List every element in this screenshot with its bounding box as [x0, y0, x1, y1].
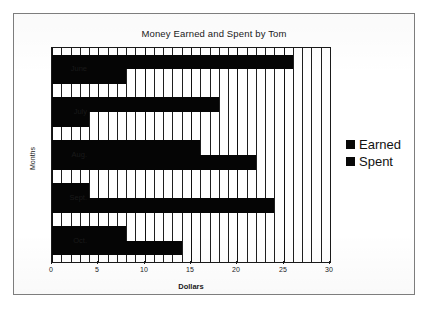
y-tick-label-sept: Sept. — [53, 192, 87, 201]
x-tick — [144, 261, 145, 264]
x-tick — [190, 261, 191, 264]
x-tick — [51, 261, 52, 264]
chart-figure-frame: Money Earned and Spent by Tom Months 051… — [13, 13, 415, 295]
legend-label-spent: Spent — [359, 155, 393, 169]
x-tick — [236, 261, 237, 264]
x-tick — [283, 261, 284, 264]
y-axis-title: Months — [29, 129, 36, 189]
bar-group-sept — [52, 176, 330, 219]
y-tick-label-oct: Oct. — [53, 235, 87, 244]
bar-group-oct — [52, 219, 330, 262]
legend-swatch-spent — [346, 157, 355, 166]
x-tick-label: 25 — [279, 266, 287, 273]
y-tick-label-aug: Aug. — [53, 150, 87, 159]
bar-earned-june — [52, 55, 293, 70]
bar-group-aug — [52, 134, 330, 177]
y-tick-label-july: July — [53, 107, 87, 116]
x-axis-title: Dollars — [51, 282, 331, 291]
bars-layer — [52, 48, 330, 262]
legend-swatch-earned — [346, 140, 355, 149]
bar-group-june — [52, 48, 330, 91]
x-tick-label: 10 — [140, 266, 148, 273]
x-tick — [329, 261, 330, 264]
x-tick-label: 30 — [325, 266, 333, 273]
x-tick-label: 20 — [232, 266, 240, 273]
x-tick-label: 5 — [95, 266, 99, 273]
y-tick-label-june: June — [53, 64, 87, 73]
x-tick — [97, 261, 98, 264]
chart-legend: Earned Spent — [346, 138, 410, 171]
bar-group-july — [52, 91, 330, 134]
x-tick-label: 0 — [49, 266, 53, 273]
x-tick-label: 15 — [186, 266, 194, 273]
plot-area — [51, 47, 331, 263]
chart-title: Money Earned and Spent by Tom — [14, 28, 414, 39]
legend-item-spent: Spent — [346, 155, 410, 169]
legend-item-earned: Earned — [346, 138, 410, 152]
legend-label-earned: Earned — [359, 138, 401, 152]
